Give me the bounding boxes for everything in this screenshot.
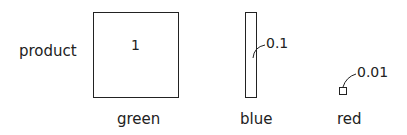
leader-lines <box>0 0 407 135</box>
